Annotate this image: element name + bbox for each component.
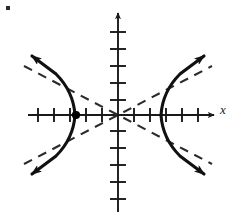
hyperbola-figure: x — [0, 0, 237, 220]
x-axis-label: x — [220, 103, 226, 116]
right-branch-lower — [161, 115, 204, 174]
hyperbola-graph-svg — [0, 0, 237, 220]
right-branch-upper — [161, 56, 204, 115]
left-branch-upper — [32, 56, 75, 115]
left-branch-lower — [32, 115, 75, 174]
left-vertex-dot — [72, 111, 80, 119]
axes-group — [28, 13, 214, 212]
